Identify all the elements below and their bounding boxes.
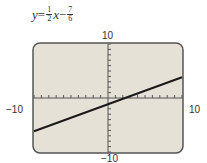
graph-screen	[0, 0, 207, 163]
